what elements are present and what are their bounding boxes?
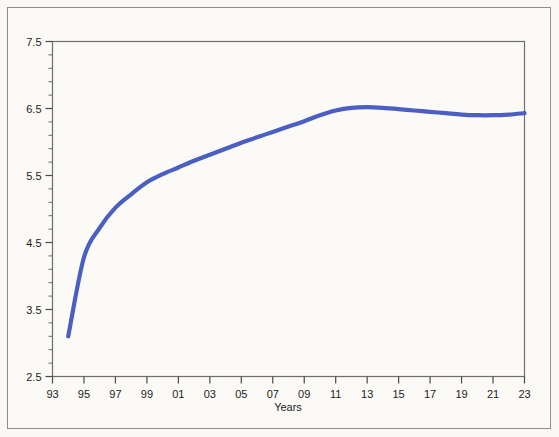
y-axis-tick-label: 6.5: [26, 103, 41, 115]
y-axis-tick-label: 4.5: [26, 237, 41, 249]
x-axis-tick-label: 99: [141, 388, 153, 400]
y-axis-tick-label: 2.5: [26, 371, 41, 383]
x-axis-tick-label: 93: [46, 388, 58, 400]
line-chart: 2.53.54.55.56.57.5 939597990103050709111…: [0, 0, 559, 437]
x-axis-tick-label: 03: [204, 388, 216, 400]
x-axis-tick-label: 11: [330, 388, 341, 400]
x-axis-tick-label: 17: [424, 388, 436, 400]
x-axis-tick-label: 07: [267, 388, 279, 400]
y-axis-major-ticks: [46, 42, 53, 377]
y-axis-tick-label: 5.5: [26, 170, 41, 182]
x-axis-tick-label: 01: [172, 388, 184, 400]
x-axis-title: Years: [274, 401, 302, 413]
x-axis-tick-label: 95: [78, 388, 90, 400]
x-axis-tick-label: 97: [109, 388, 121, 400]
x-axis-tick-label: 13: [361, 388, 373, 400]
figure-container: 2.53.54.55.56.57.5 939597990103050709111…: [0, 0, 559, 437]
x-axis-tick-label: 23: [518, 388, 530, 400]
x-axis-tick-label: 09: [298, 388, 310, 400]
x-axis-tick-label: 21: [487, 388, 499, 400]
x-axis-major-ticks: [53, 377, 525, 384]
x-axis-tick-label: 15: [393, 388, 405, 400]
y-axis-tick-label: 7.5: [26, 36, 41, 48]
x-axis-tick-label: 19: [455, 388, 467, 400]
x-axis-tick-labels: 93959799010305070911131517192123: [46, 388, 530, 400]
data-series-line: [68, 107, 524, 336]
x-axis-tick-label: 05: [235, 388, 247, 400]
y-axis-tick-labels: 2.53.54.55.56.57.5: [26, 36, 41, 383]
plot-frame: [53, 42, 525, 377]
y-axis-tick-label: 3.5: [26, 304, 41, 316]
